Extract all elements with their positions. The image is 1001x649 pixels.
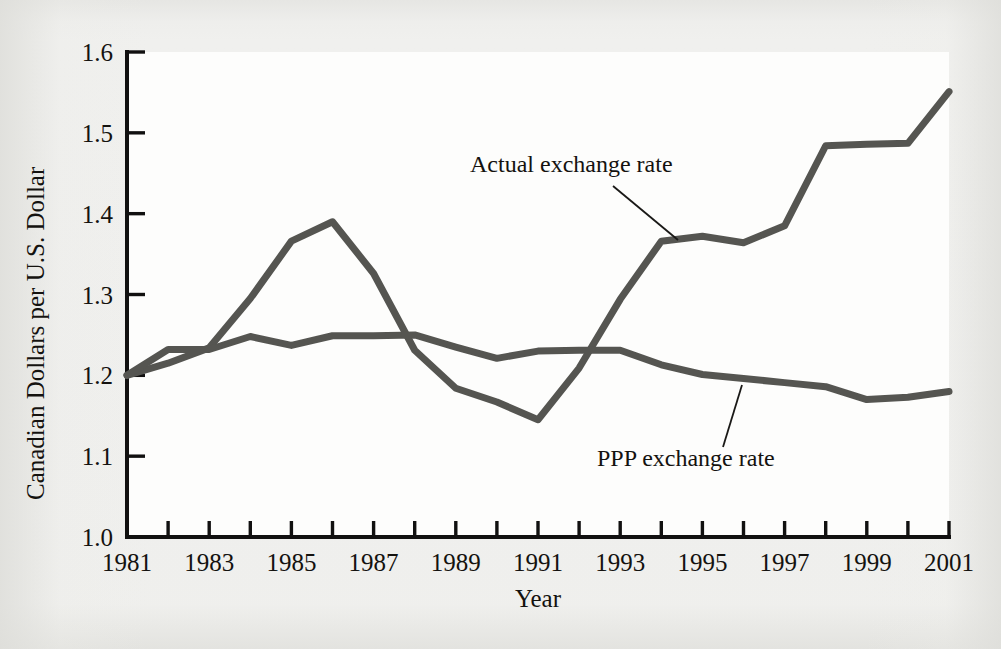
y-tick-label: 1.0 <box>82 524 113 551</box>
x-tick-marks <box>127 521 949 537</box>
annotation-leader-line <box>723 385 742 447</box>
line-chart: 1.01.11.21.31.41.51.6 198119831985198719… <box>0 0 1001 649</box>
x-axis-title: Year <box>515 585 562 612</box>
y-tick-marks <box>127 52 145 537</box>
x-tick-label: 1997 <box>760 549 810 576</box>
x-tick-label: 1981 <box>102 549 152 576</box>
x-tick-label: 1995 <box>677 549 727 576</box>
y-tick-label: 1.4 <box>82 201 114 228</box>
x-axis-group: 1981198319851987198919911993199519971999… <box>102 521 974 576</box>
y-tick-label: 1.1 <box>82 443 113 470</box>
x-tick-labels: 1981198319851987198919911993199519971999… <box>102 549 974 576</box>
series-line-ppp-exchange-rate <box>127 335 949 400</box>
y-tick-label: 1.3 <box>82 282 113 309</box>
annotations-group: Actual exchange ratePPP exchange rate <box>470 151 775 471</box>
annotation-label: Actual exchange rate <box>470 151 673 177</box>
x-tick-label: 1993 <box>595 549 645 576</box>
data-series-group <box>127 92 949 420</box>
x-tick-label: 1987 <box>349 549 399 576</box>
annotation-leader-line <box>613 186 678 240</box>
figure-page: 1.01.11.21.31.41.51.6 198119831985198719… <box>0 0 1001 649</box>
x-tick-label: 1989 <box>431 549 481 576</box>
y-tick-labels: 1.01.11.21.31.41.51.6 <box>82 39 114 551</box>
x-tick-label: 1985 <box>266 549 316 576</box>
y-axis-title: Canadian Dollars per U.S. Dollar <box>22 166 49 500</box>
y-tick-label: 1.2 <box>82 362 113 389</box>
x-tick-label: 1999 <box>842 549 892 576</box>
series-line-actual-exchange-rate <box>127 92 949 420</box>
x-tick-label: 2001 <box>924 549 974 576</box>
x-tick-label: 1991 <box>513 549 563 576</box>
y-axis-group: 1.01.11.21.31.41.51.6 <box>82 39 145 551</box>
y-tick-label: 1.6 <box>82 39 113 66</box>
annotation-label: PPP exchange rate <box>597 445 775 471</box>
y-tick-label: 1.5 <box>82 120 113 147</box>
x-tick-label: 1983 <box>184 549 234 576</box>
